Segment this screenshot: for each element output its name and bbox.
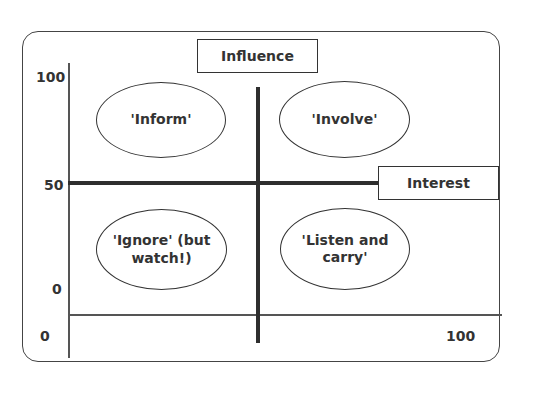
- interest-label-text: Interest: [407, 175, 470, 191]
- quadrant-ignore: 'Ignore' (but watch!): [96, 209, 227, 290]
- quadrant-listen-and-carry: 'Listen and carry': [280, 208, 410, 290]
- quadrant-listen-label: 'Listen and carry': [295, 232, 395, 267]
- y-tick-100: 100: [36, 70, 65, 84]
- quadrant-ignore-label: 'Ignore' (but watch!): [111, 232, 212, 267]
- x-tick-100: 100: [446, 329, 475, 343]
- quadrant-involve: 'Involve': [279, 81, 410, 158]
- y-tick-50: 50: [44, 178, 63, 192]
- y-tick-0: 0: [52, 282, 62, 296]
- influence-divider-line: [256, 87, 260, 343]
- influence-label-text: Influence: [221, 48, 294, 64]
- interest-axis-label: Interest: [378, 166, 499, 200]
- influence-axis-label: Influence: [197, 39, 318, 73]
- quadrant-inform: 'Inform': [96, 82, 226, 158]
- x-axis-line: [68, 314, 502, 316]
- x-tick-0: 0: [40, 329, 50, 343]
- quadrant-inform-label: 'Inform': [131, 111, 192, 129]
- interest-divider-line: [68, 181, 378, 185]
- quadrant-involve-label: 'Involve': [312, 111, 378, 129]
